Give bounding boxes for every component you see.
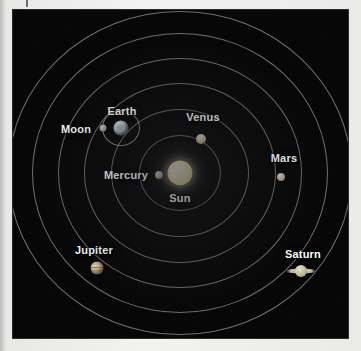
label-mars: Mars <box>271 152 297 164</box>
label-venus: Venus <box>186 111 219 123</box>
body-saturn <box>286 264 316 278</box>
body-sun <box>168 161 193 186</box>
saturn-body <box>295 265 307 277</box>
label-saturn: Saturn <box>285 248 321 260</box>
label-jupiter: Jupiter <box>75 244 113 256</box>
registration-tick-mark <box>26 0 28 7</box>
starfield-panel: Sun Mercury Venus Earth Moon Mars Jupite… <box>13 10 348 338</box>
body-mercury <box>155 171 163 179</box>
body-venus <box>196 134 206 144</box>
label-earth: Earth <box>107 105 136 117</box>
label-moon: Moon <box>61 123 91 135</box>
label-sun: Sun <box>169 192 190 204</box>
body-jupiter <box>91 262 104 275</box>
body-earth <box>114 121 129 136</box>
body-moon <box>100 125 107 132</box>
solar-system-figure: Sun Mercury Venus Earth Moon Mars Jupite… <box>0 0 361 351</box>
label-mercury: Mercury <box>104 169 148 181</box>
body-mars <box>277 173 285 181</box>
